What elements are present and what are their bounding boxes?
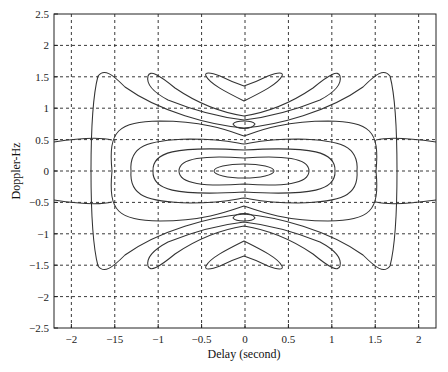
x-tick-label: 2	[416, 333, 422, 345]
y-tick-label: −2	[37, 291, 49, 303]
x-tick-label: −0.5	[192, 333, 212, 345]
grid-lines	[54, 14, 436, 328]
y-tick-label: −1.5	[29, 259, 49, 271]
y-tick-label: 0.5	[35, 134, 49, 146]
x-tick-label: 1.5	[368, 333, 382, 345]
x-tick-label: 1	[329, 333, 335, 345]
x-tick-label: −15	[106, 333, 124, 345]
x-tick-label: 0.5	[282, 333, 296, 345]
y-tick-label: 2.5	[35, 8, 49, 20]
x-tick-label: 0	[242, 333, 248, 345]
y-tick-label: −2.5	[29, 322, 49, 334]
y-axis-label: Doppler-Hz	[9, 142, 23, 199]
contour-chart: −2−15−1−0.500.511.52 2.521.510.50−0.5−1−…	[0, 0, 448, 372]
y-tick-label: 0	[44, 165, 50, 177]
x-tick-label: −2	[66, 333, 78, 345]
y-tick-label: 1.5	[35, 71, 49, 83]
y-tick-label: 2	[44, 39, 50, 51]
y-tick-label: −1	[37, 228, 49, 240]
y-tick-label: 1	[44, 102, 50, 114]
x-tick-label: −1	[152, 333, 164, 345]
y-tick-label: −0.5	[29, 196, 49, 208]
x-axis-ticks: −2−15−1−0.500.511.52	[66, 324, 422, 345]
x-axis-label: Delay (second)	[208, 347, 281, 361]
